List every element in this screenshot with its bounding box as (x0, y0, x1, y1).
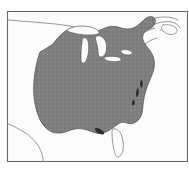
range-map-figure (0, 0, 189, 169)
map-svg-canvas (0, 0, 189, 169)
